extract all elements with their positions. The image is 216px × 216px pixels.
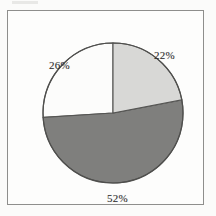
pie-chart-svg — [8, 11, 203, 204]
pie-chart-plot-area: 22% 26% 52% — [8, 11, 203, 204]
pie-slice-26[interactable] — [43, 43, 113, 117]
scan-artifact — [12, 1, 38, 4]
pie-label-52: 52% — [107, 192, 128, 204]
pie-label-26: 26% — [49, 59, 70, 71]
figure-frame: 22% 26% 52% — [7, 10, 204, 205]
page-canvas: 22% 26% 52% — [0, 0, 216, 216]
pie-label-22: 22% — [154, 49, 175, 61]
